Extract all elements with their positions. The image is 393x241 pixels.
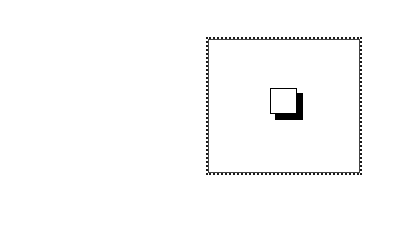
- window-with-drop-shadow-icon[interactable]: [270, 88, 297, 114]
